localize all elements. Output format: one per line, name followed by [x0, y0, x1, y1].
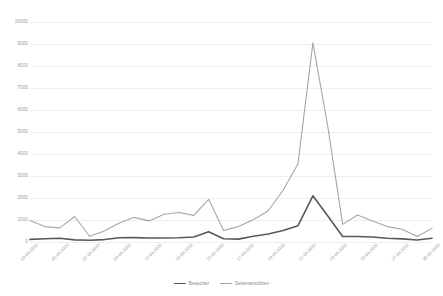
legend-label: Seitenansichten [235, 282, 269, 287]
x-tick-label: 17.04.2020 [237, 243, 256, 262]
y-tick-label: 2000 [0, 196, 28, 201]
y-tick-label: 1000 [0, 218, 28, 223]
x-tick-label: 23.04.2020 [329, 243, 348, 262]
x-tick-label: 03.04.2020 [20, 243, 39, 262]
x-tick-label: 30.04.2020 [422, 243, 441, 262]
series-layer [30, 22, 432, 242]
y-tick-label: 0 [0, 240, 28, 245]
x-tick-label: 05.04.2020 [51, 243, 70, 262]
y-tick-label: 7000 [0, 86, 28, 91]
y-tick-label: 5000 [0, 130, 28, 135]
x-tick-label: 07.04.2020 [82, 243, 101, 262]
series-line [30, 196, 432, 240]
x-tick-label: 25.04.2020 [360, 243, 379, 262]
line-chart: 1000090008000700060005000400030002000100… [0, 0, 443, 296]
x-tick-label: 19.04.2020 [267, 243, 286, 262]
y-tick-label: 6000 [0, 108, 28, 113]
series-line [30, 43, 432, 237]
legend-entry[interactable]: Besucher [174, 282, 209, 287]
x-tick-label: 11.04.2020 [144, 243, 163, 262]
x-axis: 03.04.202005.04.202007.04.202009.04.2020… [30, 243, 432, 275]
plot-area [30, 22, 432, 242]
y-axis: 1000090008000700060005000400030002000100… [0, 22, 28, 242]
y-tick-label: 3000 [0, 174, 28, 179]
x-tick-label: 13.04.2020 [175, 243, 194, 262]
legend-entry[interactable]: Seitenansichten [220, 282, 269, 287]
y-tick-label: 10000 [0, 20, 28, 25]
legend-swatch-icon [174, 283, 186, 284]
y-tick-label: 9000 [0, 42, 28, 47]
y-tick-label: 8000 [0, 64, 28, 69]
y-tick-label: 4000 [0, 152, 28, 157]
x-tick-label: 21.04.2020 [298, 243, 317, 262]
legend-swatch-icon [220, 283, 232, 284]
x-tick-label: 27.04.2020 [391, 243, 410, 262]
x-tick-label: 09.04.2020 [113, 243, 132, 262]
legend-label: Besucher [189, 282, 209, 287]
chart-legend: BesucherSeitenansichten [0, 277, 443, 291]
x-tick-label: 15.04.2020 [206, 243, 225, 262]
